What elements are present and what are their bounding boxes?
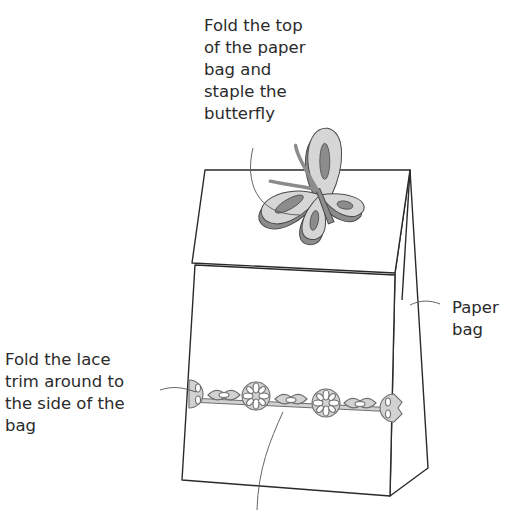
lace-flower (242, 382, 270, 410)
lace-instruction-label: Fold the lace trim around to the side of… (5, 349, 155, 437)
bag-front-panel (182, 265, 395, 496)
lace-flower (312, 389, 340, 417)
butterfly-instruction-label: Fold the top of the paper bag and staple… (204, 15, 344, 125)
paper-bag-label: Paper bag (452, 297, 521, 341)
